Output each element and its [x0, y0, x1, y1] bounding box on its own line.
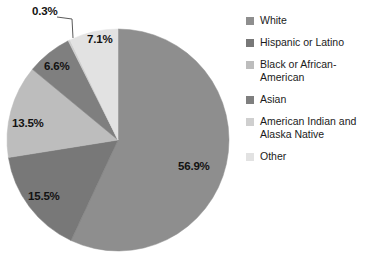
legend-item[interactable]: Asian — [246, 93, 367, 106]
slice-value-label: 0.3% — [32, 5, 57, 17]
legend-swatch-icon — [246, 96, 254, 104]
legend-swatch-icon — [246, 17, 254, 25]
legend-swatch-icon — [246, 118, 254, 126]
slice-value-label: 56.9% — [178, 160, 210, 172]
legend-swatch-icon — [246, 39, 254, 47]
slice-value-label: 6.6% — [44, 60, 69, 72]
pie-svg — [0, 0, 240, 262]
pie-plot-area: 56.9%15.5%13.5%6.6%0.3%7.1% — [0, 0, 240, 262]
slice-value-label: 15.5% — [28, 190, 60, 202]
pie-chart: 56.9%15.5%13.5%6.6%0.3%7.1% WhiteHispani… — [0, 0, 367, 262]
legend-item[interactable]: White — [246, 14, 367, 27]
slice-value-label: 13.5% — [12, 117, 44, 129]
leader-line-0-3-percent — [57, 17, 73, 38]
pie-slice-group — [7, 29, 229, 251]
chart-legend: WhiteHispanic or LatinoBlack or African-… — [246, 14, 367, 172]
legend-item-label: Asian — [260, 93, 286, 106]
legend-item[interactable]: Hispanic or Latino — [246, 36, 367, 49]
legend-item-label: American Indian and Alaska Native — [260, 115, 364, 141]
slice-value-label: 7.1% — [87, 33, 112, 45]
legend-swatch-icon — [246, 61, 254, 69]
legend-item-label: Hispanic or Latino — [260, 36, 344, 49]
legend-item[interactable]: Black or African-American — [246, 58, 367, 84]
legend-item-label: White — [260, 14, 287, 27]
legend-item-label: Other — [260, 150, 286, 163]
legend-item[interactable]: Other — [246, 150, 367, 163]
legend-swatch-icon — [246, 153, 254, 161]
legend-item-label: Black or African-American — [260, 58, 364, 84]
legend-item[interactable]: American Indian and Alaska Native — [246, 115, 367, 141]
